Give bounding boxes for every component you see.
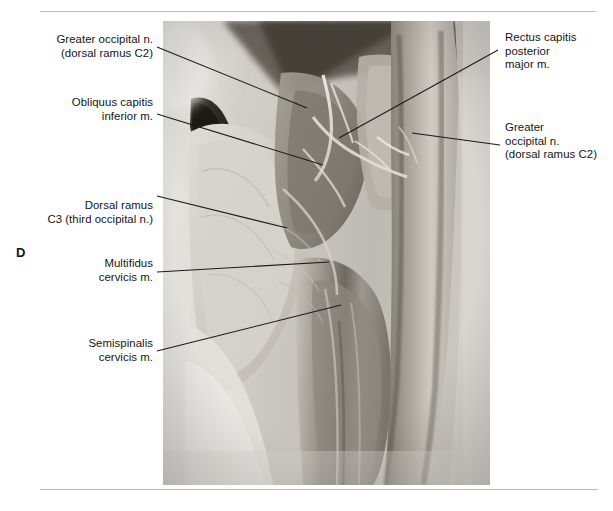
label-greater-occipital-nerve-right: Greater occipital n. (dorsal ramus C2): [505, 121, 613, 162]
figure-page: D: [0, 0, 613, 511]
dissection-photograph: [163, 21, 490, 485]
label-rectus-capitis-posterior-major: Rectus capitis posterior major m.: [505, 31, 610, 72]
top-divider-rule: [40, 11, 596, 12]
label-multifidus-cervicis: Multifidus cervicis m.: [0, 257, 153, 284]
dissection-photograph-image: [163, 21, 490, 485]
label-dorsal-ramus-c3: Dorsal ramus C3 (third occipital n.): [0, 199, 153, 226]
label-greater-occipital-nerve-left: Greater occipital n. (dorsal ramus C2): [0, 33, 153, 60]
label-obliquus-capitis-inferior: Obliquus capitis inferior m.: [0, 96, 153, 123]
label-semispinalis-cervicis: Semispinalis cervicis m.: [0, 337, 153, 364]
bottom-divider-rule: [40, 489, 598, 490]
